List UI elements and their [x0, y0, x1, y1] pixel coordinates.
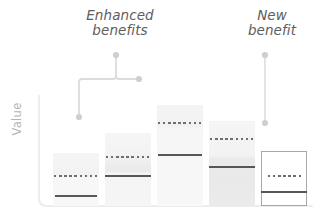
- connector-dot-benefit-2: [136, 76, 142, 82]
- chart-container: Value: [0, 0, 317, 220]
- annotation-label-new-benefit: New benefit: [228, 8, 316, 38]
- connector-branch-left: [79, 76, 116, 116]
- x-tick-label: [201, 213, 255, 220]
- x-tick-label: [256, 213, 310, 220]
- x-axis-tick-labels: [38, 213, 310, 220]
- connector-branch-right: [116, 76, 138, 79]
- connector-dot-enhanced-top: [113, 52, 119, 58]
- x-tick-label: [92, 213, 146, 220]
- connector-dot-benefit-5: [262, 120, 268, 126]
- connector-dot-new-top: [262, 52, 268, 58]
- annotation-label-enhanced-benefits: Enhanced benefits: [62, 8, 178, 38]
- x-tick-label: [38, 213, 92, 220]
- x-tick-label: [147, 213, 201, 220]
- connector-dot-benefit-1: [76, 114, 82, 120]
